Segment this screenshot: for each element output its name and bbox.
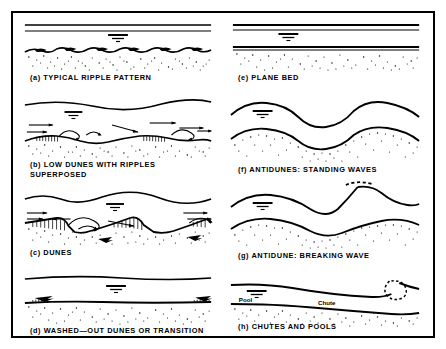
panel-g-caption: (g) ANTIDUNE: BREAKING WAVE — [223, 251, 446, 261]
water-level-symbol-e — [278, 34, 298, 41]
panel-g: (g) ANTIDUNE: BREAKING WAVE — [223, 183, 433, 269]
panel-b-caption: (b) LOW DUNES WITH RIPPLES SUPERPOSED — [13, 160, 240, 179]
panel-e: (e) PLANE BED — [223, 15, 433, 93]
panel-h-artwork: Pool Chute — [223, 269, 433, 327]
sediment-stipple-d — [28, 306, 210, 324]
panel-a-caption: (a) TYPICAL RIPPLE PATTERN — [13, 73, 240, 83]
figure-border: (a) TYPICAL RIPPLE PATTERN — [11, 11, 435, 338]
sediment-stipple-g — [234, 224, 418, 248]
water-level-symbol-d — [106, 286, 126, 293]
sediment-stipple-e — [236, 53, 418, 70]
panel-d-artwork — [13, 269, 223, 325]
sediment-stipple-f — [234, 132, 418, 161]
panel-c-artwork — [13, 185, 223, 247]
panel-f-caption: (f) ANTIDUNES: STANDING WAVES — [223, 165, 446, 175]
water-level-symbol-c — [106, 204, 124, 211]
panel-h: Pool Chute — [223, 269, 433, 339]
water-surface-line-a — [25, 25, 211, 31]
figure-column-left: (a) TYPICAL RIPPLE PATTERN — [13, 13, 223, 336]
water-surface-crest-g — [358, 187, 419, 206]
water-level-symbol-g — [253, 203, 273, 210]
water-surface-line-g — [231, 187, 358, 214]
bed-profile-b — [25, 136, 211, 158]
pool-label: Pool — [239, 296, 253, 303]
bed-profile-d — [25, 296, 212, 325]
bed-profile-c — [25, 217, 211, 244]
water-surface-line-d — [25, 277, 211, 280]
panel-c: (c) DUNES — [13, 185, 223, 269]
water-surface-line-e — [233, 25, 419, 30]
panel-d: (d) WASHED—OUT DUNES OR TRANSITION — [13, 269, 223, 339]
water-surface-line-b — [25, 100, 211, 110]
panel-g-artwork — [223, 183, 433, 249]
panel-a-artwork — [13, 15, 223, 71]
panel-c-caption: (c) DUNES — [13, 248, 240, 258]
panel-f-artwork — [223, 95, 433, 163]
figure-column-right: (e) PLANE BED — [223, 13, 433, 336]
panel-b: (b) LOW DUNES WITH RIPPLES SUPERPOSED — [13, 95, 223, 183]
bed-profile-e — [233, 47, 419, 71]
bed-profile-a — [25, 48, 211, 71]
water-level-symbol-b — [65, 112, 83, 119]
water-surface-line-c — [25, 192, 211, 203]
panel-a: (a) TYPICAL RIPPLE PATTERN — [13, 15, 223, 93]
sediment-stipple-a — [28, 55, 210, 70]
breaking-crest-dashed-g — [346, 182, 372, 185]
flow-arrows-b — [27, 121, 204, 133]
flow-arrows-c — [27, 212, 212, 227]
panel-h-caption: (h) CHUTES AND POOLS — [223, 322, 446, 332]
sediment-stipple-c — [28, 228, 210, 244]
panel-e-artwork — [223, 15, 433, 71]
chute-label: Chute — [318, 299, 336, 306]
water-level-symbol-a — [108, 35, 128, 42]
bedload-arrows-c — [98, 235, 202, 243]
panel-b-artwork — [13, 95, 223, 159]
panel-e-caption: (e) PLANE BED — [223, 73, 446, 83]
bed-profile-f — [231, 127, 419, 161]
panel-f: (f) ANTIDUNES: STANDING WAVES — [223, 95, 433, 183]
panel-d-caption: (d) WASHED—OUT DUNES OR TRANSITION — [13, 326, 240, 336]
sediment-stipple-b — [28, 144, 210, 157]
bed-profile-g — [231, 219, 419, 249]
water-level-symbol-f — [253, 111, 273, 118]
